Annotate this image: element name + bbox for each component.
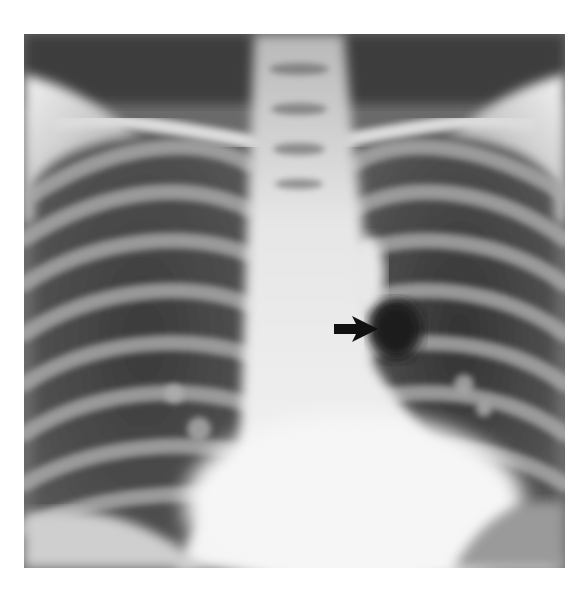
chest-xray-image	[24, 34, 565, 568]
xray-rendering	[24, 34, 565, 568]
arrow-right-icon	[334, 316, 378, 342]
